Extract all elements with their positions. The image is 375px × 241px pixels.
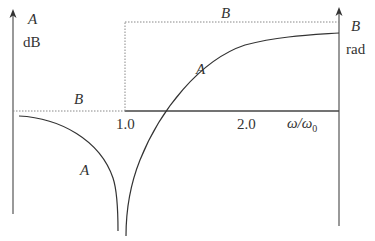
curve-label-b-left: B <box>74 92 83 107</box>
x-tick-2: 2.0 <box>237 117 256 132</box>
diagram-canvas <box>0 0 375 241</box>
x-axis-label-text: ω/ω <box>287 115 312 131</box>
curve-label-a-upper: A <box>196 62 205 77</box>
x-axis-label-subscript: 0 <box>312 123 317 134</box>
x-tick-1: 1.0 <box>116 117 135 132</box>
right-axis-label: B <box>351 19 360 34</box>
curve-label-a-lower: A <box>80 163 89 178</box>
left-axis-unit: dB <box>23 35 41 50</box>
amplitude-curve-a-left <box>19 116 118 231</box>
curve-label-b-top: B <box>221 6 230 21</box>
right-axis-unit: rad <box>346 42 365 57</box>
x-axis-label: ω/ω0 <box>287 116 317 134</box>
left-axis-label: A <box>28 12 37 27</box>
amplitude-curve-a-right <box>126 33 339 236</box>
